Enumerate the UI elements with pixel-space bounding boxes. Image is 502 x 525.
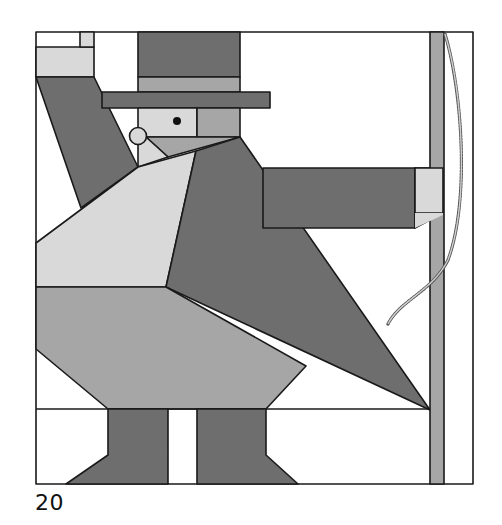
hat-band — [138, 77, 240, 92]
top-left-light-strip — [36, 47, 94, 77]
quilt-block-illustration — [0, 0, 502, 525]
hat-brim — [102, 92, 270, 108]
top-left-small-square — [80, 32, 94, 47]
hat-crown — [138, 32, 240, 77]
eye — [173, 117, 181, 125]
face-right — [197, 108, 240, 137]
hand-over-pole — [415, 168, 443, 213]
figure-number: 20 — [35, 490, 64, 515]
face-left — [138, 108, 197, 137]
pole — [430, 32, 444, 484]
ear — [130, 128, 147, 145]
extended-arm — [263, 168, 415, 228]
